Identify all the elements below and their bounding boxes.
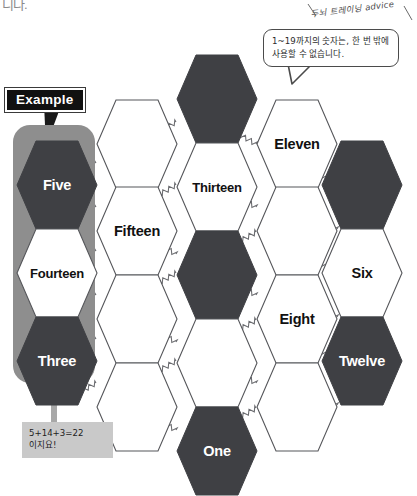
hexagon-shape bbox=[17, 317, 97, 405]
hexagon-cell[interactable]: Five bbox=[16, 140, 98, 230]
advice-leader-right bbox=[404, 6, 412, 20]
example-sum-comment: 이지요! bbox=[29, 439, 107, 451]
hexagon-shape bbox=[97, 275, 177, 363]
speech-bubble: 1~19까지의 숫자는, 한 번 밖에 사용할 수 없습니다. bbox=[263, 29, 399, 67]
hexagon-shape bbox=[97, 187, 177, 275]
hexagon-cell[interactable]: Fifteen bbox=[96, 186, 178, 276]
hexagon-shape bbox=[97, 100, 177, 188]
hexagon-shape bbox=[177, 231, 257, 319]
hexagon-cell[interactable]: Fourteen bbox=[16, 228, 98, 318]
advice-leader-left bbox=[308, 4, 316, 16]
speech-bubble-tail bbox=[288, 64, 312, 84]
example-sum-equation: 5+14+3=22 bbox=[29, 427, 107, 439]
hexagon-cell[interactable]: Thirteen bbox=[176, 142, 258, 232]
hexagon-cell[interactable] bbox=[256, 362, 338, 452]
hexagon-cell[interactable] bbox=[176, 230, 258, 320]
hexagon-cell[interactable] bbox=[96, 274, 178, 364]
hexagon-shape bbox=[177, 319, 257, 407]
hexagon-shape bbox=[257, 363, 337, 451]
hexagon-cell[interactable] bbox=[96, 99, 178, 189]
hexagon-cell[interactable]: Three bbox=[16, 316, 98, 406]
hexagon-shape bbox=[177, 143, 257, 231]
hexagon-cell[interactable] bbox=[176, 54, 258, 144]
hexagon-shape bbox=[17, 229, 97, 317]
speech-bubble-text: 1~19까지의 숫자는, 한 번 밖에 사용할 수 없습니다. bbox=[272, 35, 391, 61]
hexagon-shape bbox=[177, 55, 257, 143]
example-badge: Example bbox=[5, 88, 85, 112]
hexagon-cell[interactable] bbox=[176, 318, 258, 408]
example-sum-callout: 5+14+3=22 이지요! bbox=[22, 422, 113, 458]
hexagon-shape bbox=[17, 141, 97, 229]
hexagon-shape bbox=[177, 407, 257, 495]
hexagon-cell[interactable]: One bbox=[176, 406, 258, 496]
